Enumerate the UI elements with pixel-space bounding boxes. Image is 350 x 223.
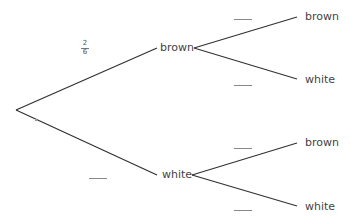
leaf-label-brown-white: white xyxy=(305,74,335,86)
branch-brown-to-white xyxy=(194,48,297,79)
fraction-denominator: 6 xyxy=(83,48,87,56)
tree-branches xyxy=(0,0,350,223)
leaf-label-white-brown: brown xyxy=(305,137,339,149)
blank-probability-white-brown[interactable] xyxy=(234,148,252,149)
blank-probability-brown-brown[interactable] xyxy=(234,19,252,20)
probability-tree-diagram: 2 6 brown white brown white brown white xyxy=(0,0,350,223)
blank-probability-root-white[interactable] xyxy=(89,178,107,179)
blank-probability-white-white[interactable] xyxy=(234,210,252,211)
fraction-numerator: 2 xyxy=(83,39,87,47)
stray-mark xyxy=(35,119,37,121)
leaf-label-white-white: white xyxy=(305,201,335,213)
node-label-white: white xyxy=(162,169,192,181)
node-label-brown: brown xyxy=(160,42,194,54)
blank-probability-brown-white[interactable] xyxy=(234,85,252,86)
branch-root-to-brown xyxy=(16,48,157,110)
probability-root-brown: 2 6 xyxy=(81,40,89,56)
branch-brown-to-brown xyxy=(194,17,297,48)
branch-white-to-white xyxy=(192,175,297,206)
leaf-label-brown-brown: brown xyxy=(305,11,339,23)
